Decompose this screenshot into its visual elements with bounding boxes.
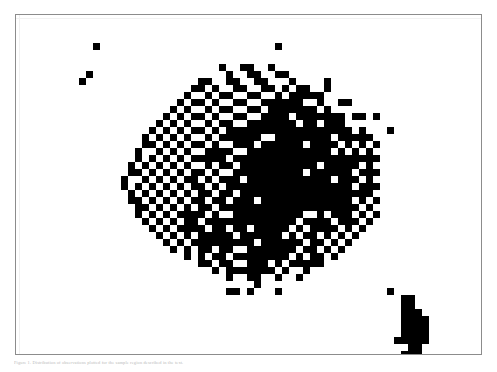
scatter-point	[324, 85, 331, 92]
scatter-point	[240, 183, 247, 190]
scatter-point	[303, 267, 310, 274]
scatter-point	[198, 197, 205, 204]
scatter-point	[338, 113, 345, 120]
scatter-point	[331, 155, 338, 162]
scatter-point	[240, 169, 247, 176]
scatter-point	[373, 183, 380, 190]
scatter-point	[254, 218, 261, 225]
scatter-point	[282, 176, 289, 183]
scatter-point	[247, 274, 254, 281]
scatter-point	[289, 127, 296, 134]
scatter-point	[282, 246, 289, 253]
scatter-point	[296, 260, 303, 267]
scatter-point	[226, 288, 233, 295]
scatter-point	[324, 141, 331, 148]
scatter-point	[352, 148, 359, 155]
scatter-point	[408, 295, 415, 302]
scatter-point	[149, 183, 156, 190]
scatter-point	[184, 162, 191, 169]
scatter-point	[303, 260, 310, 267]
scatter-point	[135, 169, 142, 176]
scatter-point	[338, 169, 345, 176]
scatter-point	[268, 197, 275, 204]
scatter-point	[226, 274, 233, 281]
scatter-point	[149, 225, 156, 232]
scatter-point	[191, 169, 198, 176]
scatter-point	[275, 127, 282, 134]
scatter-point	[296, 92, 303, 99]
scatter-point	[317, 225, 324, 232]
scatter-point	[198, 127, 205, 134]
scatter-point	[254, 246, 261, 253]
scatter-point	[205, 92, 212, 99]
scatter-point	[184, 246, 191, 253]
scatter-point	[408, 309, 415, 316]
scatter-point	[177, 155, 184, 162]
scatter-point	[366, 169, 373, 176]
scatter-point	[303, 204, 310, 211]
scatter-point	[345, 204, 352, 211]
scatter-point	[296, 134, 303, 141]
scatter-point	[240, 64, 247, 71]
scatter-point	[268, 232, 275, 239]
scatter-point	[282, 141, 289, 148]
scatter-point	[191, 99, 198, 106]
scatter-point	[219, 106, 226, 113]
scatter-point	[163, 211, 170, 218]
scatter-point	[282, 204, 289, 211]
scatter-point	[275, 218, 282, 225]
scatter-point	[296, 106, 303, 113]
scatter-point	[282, 99, 289, 106]
scatter-point	[422, 330, 429, 337]
scatter-point	[212, 99, 219, 106]
scatter-point	[128, 169, 135, 176]
scatter-point	[212, 197, 219, 204]
scatter-point	[184, 232, 191, 239]
scatter-point	[310, 190, 317, 197]
scatter-point	[142, 162, 149, 169]
scatter-point	[331, 204, 338, 211]
scatter-point	[296, 253, 303, 260]
scatter-point	[226, 162, 233, 169]
scatter-point	[219, 148, 226, 155]
scatter-point	[268, 246, 275, 253]
scatter-point	[177, 127, 184, 134]
scatter-point	[387, 127, 394, 134]
scatter-point	[191, 155, 198, 162]
scatter-point	[289, 197, 296, 204]
scatter-point	[142, 218, 149, 225]
scatter-point	[275, 155, 282, 162]
scatter-point	[345, 127, 352, 134]
scatter-point	[247, 288, 254, 295]
scatter-point	[366, 218, 373, 225]
scatter-point	[324, 134, 331, 141]
scatter-point	[254, 106, 261, 113]
scatter-point	[282, 218, 289, 225]
scatter-point	[331, 211, 338, 218]
scatter-point	[240, 225, 247, 232]
scatter-point	[296, 176, 303, 183]
scatter-point	[205, 260, 212, 267]
scatter-point	[170, 134, 177, 141]
scatter-point	[226, 92, 233, 99]
scatter-point	[79, 78, 86, 85]
scatter-point	[317, 218, 324, 225]
scatter-point	[289, 92, 296, 99]
scatter-point	[366, 134, 373, 141]
scatter-point	[282, 85, 289, 92]
scatter-point	[275, 183, 282, 190]
scatter-point	[261, 246, 268, 253]
scatter-point	[317, 155, 324, 162]
scatter-point	[303, 246, 310, 253]
scatter-point	[170, 218, 177, 225]
scatter-point	[317, 239, 324, 246]
scatter-point	[163, 155, 170, 162]
scatter-point	[275, 92, 282, 99]
scatter-point	[184, 204, 191, 211]
scatter-point	[254, 183, 261, 190]
scatter-point	[233, 218, 240, 225]
scatter-point	[310, 169, 317, 176]
scatter-point	[296, 155, 303, 162]
scatter-point	[240, 267, 247, 274]
scatter-point	[331, 169, 338, 176]
